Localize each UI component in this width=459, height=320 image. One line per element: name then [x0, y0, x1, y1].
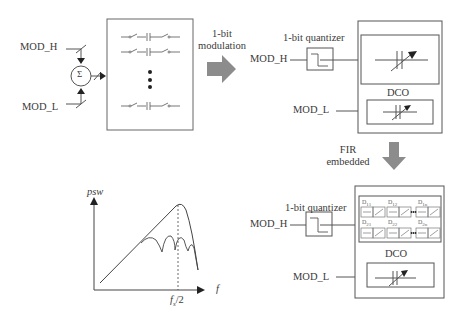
modulation-label-line1: 1-bit: [198, 28, 246, 40]
left-summer-group: [66, 45, 106, 108]
cell-label-d21: D21: [362, 219, 371, 227]
mod-l-label-bottom: MOD_L: [293, 271, 329, 282]
fir-cell-dots: [411, 211, 417, 234]
fir-arrow-label: FIR embedded: [322, 144, 374, 168]
mod-h-label-bottom: MOD_H: [250, 218, 287, 229]
psd-plot: [90, 197, 205, 294]
cell-label-d22: D22: [388, 219, 397, 227]
dco-label-bottom: DCO: [385, 248, 407, 259]
cell-label-d11: D11: [362, 199, 371, 207]
plot-ylabel: psw: [87, 186, 103, 197]
mod-l-label-left: MOD_L: [22, 101, 58, 112]
unfiltered-curve: [100, 204, 198, 283]
mod-l-label-top: MOD_L: [293, 104, 329, 115]
cell-label-d2n: D2n: [418, 219, 427, 227]
modulation-arrow: [207, 55, 236, 83]
dco-label-top: DCO: [387, 87, 409, 98]
plot-tick-fs-half: fs/2: [170, 294, 184, 308]
quantizer-box-top: [307, 48, 333, 70]
cell-label-d1n: D1n: [418, 199, 427, 207]
cell-label-d12: D12: [388, 199, 397, 207]
sum-symbol: Σ: [77, 69, 82, 79]
fir-arrow: [382, 142, 406, 170]
fir-label-line2: embedded: [322, 156, 374, 168]
filtered-curve: [141, 236, 198, 270]
quantizer-label-top: 1-bit quantizer: [283, 32, 345, 43]
fir-cell-grid: [361, 207, 440, 238]
quantizer-label-bottom: 1-bit quantizer: [285, 202, 347, 213]
mod-h-label-left: MOD_H: [20, 41, 57, 52]
fir-label-line1: FIR: [322, 144, 374, 156]
ellipsis-dots: [148, 70, 152, 89]
mod-h-label-top: MOD_H: [250, 53, 287, 64]
plot-xlabel: f: [216, 283, 219, 294]
modulation-label-line2: modulation: [198, 40, 246, 52]
modulation-arrow-label: 1-bit modulation: [198, 28, 246, 52]
